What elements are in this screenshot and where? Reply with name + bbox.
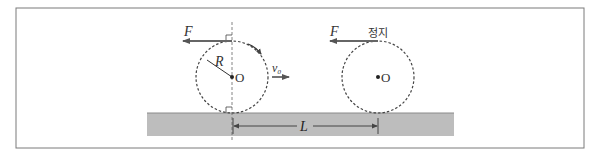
distance-label: L xyxy=(299,119,308,134)
disk-stopped: F 정지 O xyxy=(329,24,414,113)
radius-label: R xyxy=(214,54,224,69)
center-point xyxy=(230,75,234,79)
force-label: F xyxy=(183,24,193,39)
velocity-label: v₀ xyxy=(272,61,282,75)
center-label: O xyxy=(235,70,244,85)
disk-rolling-diagram: F R O v₀ F 정지 O L xyxy=(0,0,600,157)
right-angle-bottom-icon xyxy=(226,107,232,113)
force-label: F xyxy=(329,24,339,39)
disk-moving: F R O v₀ xyxy=(183,24,289,113)
stopped-state-label: 정지 xyxy=(368,27,388,40)
center-point xyxy=(376,75,380,79)
center-label: O xyxy=(381,70,390,85)
